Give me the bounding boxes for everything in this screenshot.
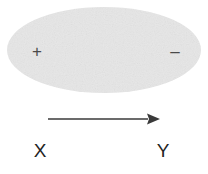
negative-charge-icon: – [170, 42, 180, 61]
label-y: Y [157, 140, 170, 161]
direction-arrow-icon [48, 114, 160, 125]
positive-charge-icon: + [32, 42, 42, 61]
arrow-head [147, 114, 160, 125]
label-x: X [34, 140, 47, 161]
diagram-canvas: + – X Y [0, 0, 208, 174]
figure-container: + – X Y [0, 0, 208, 174]
